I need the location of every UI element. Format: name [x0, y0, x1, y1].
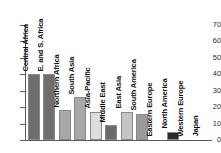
bar-category-label: E. and S. Africa [38, 18, 46, 71]
bar-category-label: East Asia [115, 77, 123, 110]
bar[interactable] [59, 110, 71, 140]
y-tick-mark [20, 107, 25, 108]
bar-category-label: South America [131, 59, 139, 110]
bar[interactable] [105, 125, 117, 140]
bar-category-label: Northern Africa [53, 54, 61, 107]
bar-category-label: Asia-Pacific [84, 68, 92, 109]
bar-slot[interactable]: Japan [198, 25, 210, 140]
bar-category-label: Japan [193, 116, 201, 137]
bar-category-label: Eastern Europe [146, 83, 154, 137]
y-tick-mark [20, 140, 25, 141]
bar-category-label: South Asia [69, 56, 77, 94]
y-tick-mark [20, 74, 25, 75]
x-axis-line [25, 140, 212, 141]
bars-group: Central AfricaE. and S. AfricaNorthern A… [26, 25, 212, 140]
bar[interactable] [28, 74, 40, 140]
bar-category-label: North America [162, 79, 170, 129]
bar[interactable] [121, 112, 133, 140]
bar-category-label: Central Africa [22, 24, 30, 71]
y-tick-mark [20, 91, 25, 92]
y-tick-mark [20, 124, 25, 125]
bar-chart: 010203040506070 Central AfricaE. and S. … [0, 0, 221, 153]
bar-category-label: Middle East [100, 82, 108, 123]
bar-category-label: Western Europe [177, 81, 185, 137]
